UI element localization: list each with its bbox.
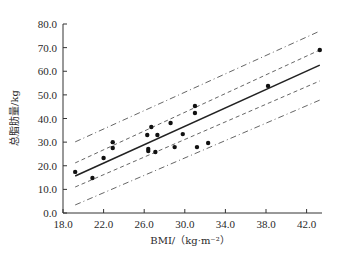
- fit-lines: [75, 31, 320, 205]
- x-tick-label: 38.0: [256, 218, 276, 230]
- scatter-chart: 18.022.026.030.034.038.042.0 0.010.020.0…: [0, 0, 340, 260]
- y-tick-label: 0.0: [43, 207, 57, 219]
- data-point: [153, 150, 157, 154]
- data-point: [266, 84, 270, 88]
- y-tick-label: 10.0: [38, 183, 58, 195]
- regression-line: [75, 65, 320, 176]
- y-tick-label: 50.0: [38, 89, 58, 101]
- data-point: [155, 133, 159, 137]
- data-point: [193, 104, 197, 108]
- y-tick-label: 80.0: [38, 18, 58, 30]
- data-point: [149, 125, 153, 129]
- data-point: [168, 121, 172, 125]
- x-tick-label: 26.0: [135, 218, 155, 230]
- data-point: [90, 176, 94, 180]
- x-tick-label: 42.0: [297, 218, 317, 230]
- data-point: [195, 145, 199, 149]
- data-point: [206, 141, 210, 145]
- x-tick-label: 34.0: [216, 218, 236, 230]
- axes: [63, 24, 322, 213]
- data-point: [146, 149, 150, 153]
- data-point: [145, 133, 149, 137]
- data-point: [181, 132, 185, 136]
- data-point: [101, 156, 105, 160]
- y-tick-label: 60.0: [38, 65, 58, 77]
- data-point: [172, 145, 176, 149]
- y-tick-label: 30.0: [38, 136, 58, 148]
- y-tick-label: 70.0: [38, 42, 58, 54]
- y-axis-title: 总脂肪量/kg: [8, 89, 20, 145]
- data-point: [111, 140, 115, 144]
- data-point: [318, 48, 322, 52]
- x-tick-label: 18.0: [53, 218, 73, 230]
- data-point: [193, 111, 197, 115]
- x-axis-ticks: 18.022.026.030.034.038.042.0: [53, 209, 316, 230]
- confidence-lower-line: [75, 81, 320, 187]
- x-tick-label: 22.0: [94, 218, 114, 230]
- prediction-lower-line: [75, 100, 320, 205]
- x-axis-title: BMI/（kg·m⁻²）: [150, 235, 229, 246]
- x-tick-label: 30.0: [175, 218, 195, 230]
- data-point: [111, 146, 115, 150]
- data-point: [73, 170, 77, 174]
- y-tick-label: 40.0: [38, 113, 58, 125]
- y-tick-label: 20.0: [38, 160, 58, 172]
- prediction-upper-line: [75, 31, 320, 142]
